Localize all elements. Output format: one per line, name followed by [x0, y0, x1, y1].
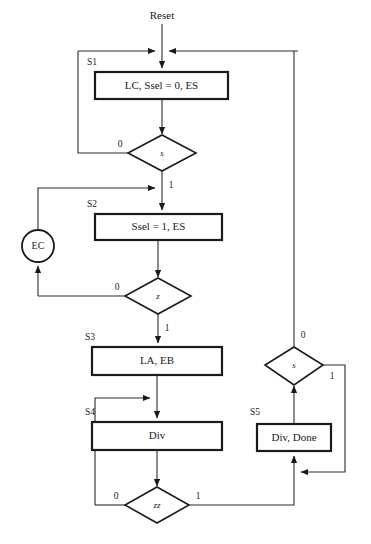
edge-label-s-top-zero: 0 — [118, 139, 123, 149]
edge-zz-zero-loop-to-s4 — [95, 398, 150, 505]
state-output-s4: Div — [149, 429, 166, 441]
edge-label-zz-zero: 0 — [114, 491, 119, 501]
reset-label: Reset — [150, 9, 174, 21]
edge-label-z-zero: 0 — [115, 282, 120, 292]
asm-chart-svg: Reset S1 LC, Ssel = 0, ES s 0 1 EC S2 Ss… — [0, 0, 371, 544]
state-output-s1: LC, Ssel = 0, ES — [125, 79, 198, 91]
edge-label-zz-one: 1 — [196, 491, 201, 501]
edge-s-top-zero-loop — [78, 51, 128, 153]
diagram-canvas: Reset S1 LC, Ssel = 0, ES s 0 1 EC S2 Ss… — [0, 0, 371, 544]
edge-zz-one-to-s5 — [189, 456, 294, 505]
conditional-output-ec-label: EC — [32, 240, 45, 251]
decision-s-top-condition: s — [160, 148, 164, 158]
state-output-s2: Ssel = 1, ES — [132, 220, 186, 232]
state-label-s1: S1 — [87, 57, 97, 67]
decision-z-condition: z — [155, 291, 160, 301]
edge-s-right-one-loop-to-s5 — [301, 365, 345, 472]
edge-label-s-right-one: 1 — [330, 371, 335, 381]
state-label-s2: S2 — [87, 199, 97, 209]
edge-label-z-one: 1 — [165, 323, 170, 333]
state-output-s3: LA, EB — [140, 354, 174, 366]
edge-label-s-right-zero: 0 — [301, 330, 306, 340]
state-output-s5: Div, Done — [271, 431, 316, 443]
state-label-s5: S5 — [250, 407, 260, 417]
state-label-s4: S4 — [85, 407, 95, 417]
decision-zz-condition: zz — [152, 500, 161, 510]
edge-label-s-top-one: 1 — [169, 180, 174, 190]
decision-s-right-condition: s — [292, 360, 296, 370]
state-label-s3: S3 — [85, 332, 95, 342]
